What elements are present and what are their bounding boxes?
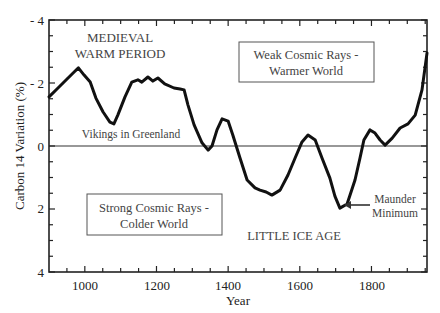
- maunder-label-line1: Maunder: [374, 193, 416, 205]
- x-axis-title: Year: [226, 293, 251, 308]
- y-tick-label: 4: [38, 265, 45, 280]
- vikings-label: Vikings in Greenland: [82, 128, 181, 141]
- y-tick-label: - 4: [30, 13, 45, 28]
- x-tick-label: 1400: [215, 278, 241, 293]
- weak-cosmic-rays-line2: Warmer World: [269, 64, 344, 78]
- strong-cosmic-rays-line1: Strong Cosmic Rays -: [99, 201, 209, 215]
- x-tick-label: 1000: [72, 278, 98, 293]
- carbon14-chart: - 4 - 2 0 2 4 1000 1200 1400 1600 1800 Y…: [0, 0, 440, 313]
- maunder-label-line2: Minimum: [372, 207, 418, 219]
- x-tick-label: 1200: [144, 278, 170, 293]
- strong-cosmic-rays-line2: Colder World: [120, 217, 189, 231]
- weak-cosmic-rays-line1: Weak Cosmic Rays -: [254, 48, 359, 62]
- y-tick-label: - 2: [30, 76, 44, 91]
- x-tick-label: 1600: [287, 278, 313, 293]
- medieval-label: MEDIEVAL: [87, 30, 153, 45]
- x-tick-labels: 1000 1200 1400 1600 1800: [72, 278, 385, 293]
- warm-period-label: WARM PERIOD: [75, 46, 166, 61]
- little-ice-age-label: LITTLE ICE AGE: [247, 229, 341, 243]
- y-tick-label: 2: [38, 201, 45, 216]
- x-tick-label: 1800: [359, 278, 385, 293]
- y-axis-title: Carbon 14 Variation (%): [12, 82, 27, 210]
- y-tick-labels: - 4 - 2 0 2 4: [30, 13, 45, 280]
- y-tick-label: 0: [38, 139, 45, 154]
